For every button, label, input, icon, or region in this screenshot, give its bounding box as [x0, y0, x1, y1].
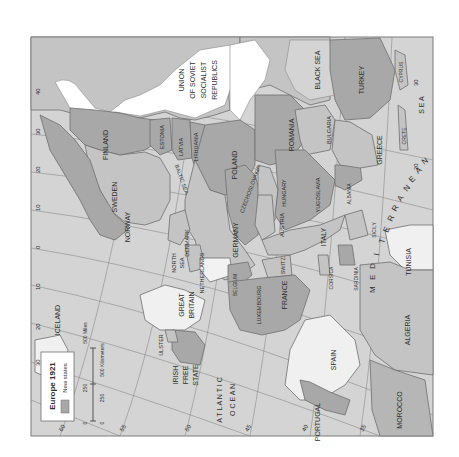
- label-bulgaria: BULGARIA: [326, 116, 332, 144]
- label-ocean: O C E A N: [229, 384, 236, 416]
- legend: Europe 1921 New states: [41, 352, 74, 421]
- scale-km-500: 500 Kilometers: [99, 343, 105, 377]
- label-atlantic: A T L A N T I C: [216, 377, 223, 423]
- label-crete: CRETE: [401, 127, 407, 145]
- med-letter: M: [368, 286, 377, 293]
- label-sicily: SICILY: [371, 222, 377, 238]
- label-tunisia: TUNISIA: [405, 248, 412, 276]
- legend-swatch-new-states: [61, 400, 69, 413]
- med-letter: E: [368, 275, 377, 280]
- label-luxembourg: LUXEMBOURG: [256, 285, 262, 324]
- label-latvia: LATVIA: [178, 137, 184, 156]
- scale-miles-500: 500 Miles: [82, 322, 88, 344]
- label-ussr-2: OF SOVIET: [189, 61, 196, 99]
- label-netherlands: NETHERLANDS: [199, 252, 205, 293]
- label-poland: POLAND: [231, 151, 238, 180]
- label-ussr-3: SOCIALIST: [200, 61, 207, 98]
- label-cyprus: CYPRUS: [398, 61, 404, 83]
- label-belgium: BELGIUM: [232, 274, 238, 297]
- europe-1921-map: 30 20 40 30 20 10 0 10 20 30 60 55 50 45…: [0, 0, 459, 457]
- label-ussr-1: UNION: [178, 69, 185, 92]
- scale-km-0: 0: [99, 421, 105, 424]
- left-label-20: 20: [35, 166, 41, 173]
- label-irish-1: IRISH: [172, 366, 179, 385]
- label-austria: AUSTRIA: [279, 213, 285, 237]
- left-label-20w: 20: [35, 323, 41, 330]
- label-irish-2: FREE: [182, 365, 189, 384]
- label-morocco: MOROCCO: [396, 391, 403, 429]
- label-yugoslavia: YUGOSLAVIA: [315, 177, 321, 212]
- scale-km-250: 250: [99, 394, 105, 403]
- grat-label-30: 30: [413, 79, 419, 86]
- label-denmark: DENMARK: [184, 229, 190, 257]
- label-albania: ALBANIA: [346, 183, 352, 205]
- label-ulster: ULSTER: [158, 334, 164, 356]
- label-north-sea-2: SEA: [179, 257, 185, 268]
- label-corsica: CORSICA: [328, 266, 334, 289]
- scale-miles-250: 250: [82, 384, 88, 393]
- left-label-10w: 10: [35, 283, 41, 290]
- left-label-30: 30: [35, 128, 41, 135]
- label-finland: FINLAND: [102, 130, 109, 160]
- label-portugal: PORTUGAL: [314, 403, 321, 441]
- label-estonia: ESTONIA: [159, 125, 165, 149]
- left-label-10: 10: [35, 204, 41, 211]
- label-italy: ITALY: [320, 227, 327, 246]
- legend-label-new-states: New states: [62, 363, 68, 393]
- med-letter: D: [368, 263, 377, 269]
- label-irish-3: STATE: [192, 364, 199, 386]
- label-great-britain-2: BRITAIN: [188, 291, 195, 318]
- scale-miles-0: 0: [82, 421, 88, 424]
- label-hungary: HUNGARY: [281, 179, 287, 207]
- label-iceland: ICELAND: [54, 305, 61, 335]
- legend-title: Europe 1921: [48, 362, 57, 410]
- label-sea: S E A: [418, 96, 425, 114]
- label-algeria: ALGERIA: [404, 315, 411, 346]
- label-great-britain-1: GREAT: [178, 292, 185, 316]
- label-sweden: SWEDEN: [111, 182, 118, 213]
- label-greece: GREECE: [376, 135, 383, 165]
- label-ussr-4: REPUBLICS: [211, 60, 218, 100]
- label-germany: GERMANY: [232, 222, 239, 258]
- left-label-30w: 30: [35, 359, 41, 366]
- label-black-sea: BLACK SEA: [314, 50, 321, 89]
- label-lithuania: LITHUANIA: [193, 132, 199, 161]
- label-north-sea-1: NORTH: [171, 253, 177, 272]
- label-sardinia: SARDINIA: [353, 267, 359, 291]
- left-label-40: 40: [35, 88, 41, 95]
- label-romania: ROMANIA: [288, 118, 295, 151]
- label-turkey: TURKEY: [358, 65, 365, 94]
- label-spain: SPAIN: [330, 350, 337, 371]
- label-norway: NORWAY: [124, 211, 131, 242]
- region-sardinia: [338, 245, 355, 265]
- label-france: FRANCE: [281, 280, 288, 309]
- label-switz: SWITZ.: [280, 255, 286, 274]
